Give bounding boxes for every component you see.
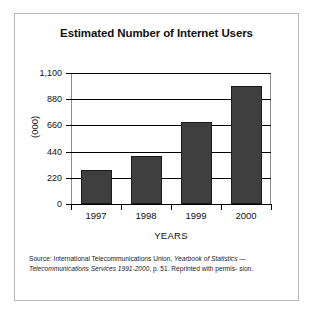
bar-1997 xyxy=(81,170,112,204)
source-line1-prefix: Source: International Telecommunications… xyxy=(29,255,174,262)
y-tick-label: 440 xyxy=(18,147,62,157)
y-tick-mark xyxy=(66,178,71,179)
source-line3: sion. xyxy=(239,265,253,272)
y-tick-mark xyxy=(66,125,71,126)
y-tick-label: 880 xyxy=(18,94,62,104)
x-tick-label-2000: 2000 xyxy=(221,210,271,221)
source-line1-italic: Yearbook of Statistics xyxy=(174,255,237,262)
y-tick-label: 1,100 xyxy=(18,68,62,78)
source-note: Source: International Telecommunications… xyxy=(29,254,287,273)
x-tick-mark xyxy=(271,204,272,210)
y-axis-line xyxy=(71,73,72,204)
y-tick-mark xyxy=(66,152,71,153)
chart-figure: Estimated Number of Internet Users (000)… xyxy=(14,13,299,301)
x-tick-label-1999: 1999 xyxy=(171,210,221,221)
y-tick-mark xyxy=(66,73,71,74)
bar-1998 xyxy=(131,156,162,204)
bar-1999 xyxy=(181,122,212,204)
chart-title: Estimated Number of Internet Users xyxy=(15,27,298,39)
source-line2-rest: , p. 51. Reprinted with permis- xyxy=(149,265,237,272)
plot-area: 02204406608801,100 xyxy=(71,73,271,204)
y-tick-label: 220 xyxy=(18,173,62,183)
y-gridline xyxy=(71,73,271,74)
y-tick-label: 0 xyxy=(18,199,62,209)
source-line2-dash: — xyxy=(239,255,246,262)
plot-right-edge xyxy=(270,73,271,204)
y-tick-mark xyxy=(66,99,71,100)
y-tick-label: 660 xyxy=(18,120,62,130)
x-tick-label-1997: 1997 xyxy=(71,210,121,221)
bar-2000 xyxy=(231,86,262,204)
source-line2-italic: Telecommunications Services 1991-2000 xyxy=(29,265,149,272)
x-axis-label: YEARS xyxy=(71,230,271,241)
x-tick-label-1998: 1998 xyxy=(121,210,171,221)
